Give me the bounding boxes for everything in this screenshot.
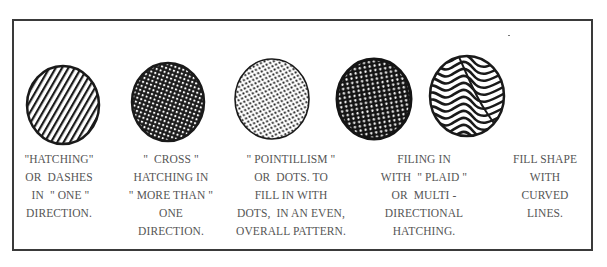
curved-lines-circle-icon [427,53,507,139]
caption-curved-lines: FILL SHAPE WITH CURVED LINES. [500,150,590,222]
caption-hatching: "HATCHING" OR DASHES IN " ONE " DIRECTIO… [18,150,100,222]
cross-hatching-circle-icon [130,61,206,143]
caption-plaid: FILING IN WITH " PLAID " OR MULTI - DIRE… [374,150,474,240]
pointillism-circle-icon [233,57,311,141]
print-speck [508,35,510,36]
caption-pointillism: " POINTILLISM " OR DOTS. TO FILL IN WITH… [221,150,361,240]
caption-cross-hatching: " CROSS " HATCHING IN " MORE THAN " ONE … [121,150,221,240]
plaid-hatching-circle-icon [335,57,413,141]
hatching-circle-icon [25,64,101,146]
